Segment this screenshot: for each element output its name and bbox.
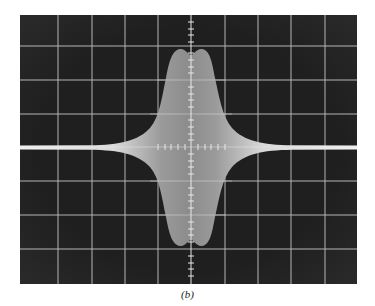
figure-caption: (b) <box>0 288 375 300</box>
oscilloscope-screen <box>0 0 375 306</box>
